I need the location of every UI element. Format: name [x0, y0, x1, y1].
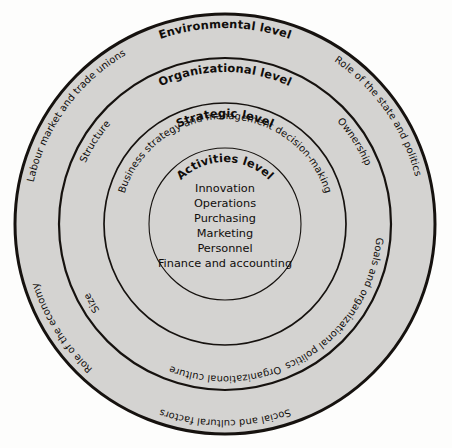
- center-list-item: Innovation: [195, 182, 255, 195]
- center-list-item: Finance and accounting: [158, 257, 292, 270]
- center-list-item: Purchasing: [194, 212, 256, 225]
- center-list-item: Marketing: [197, 227, 253, 240]
- label-technology: Technology: [0, 0, 5, 2]
- concentric-levels-svg: Environmental level Organizational level…: [0, 0, 452, 448]
- center-list-item: Operations: [194, 197, 256, 210]
- center-list-item: Personnel: [197, 242, 252, 255]
- business-environment-diagram: Environmental level Organizational level…: [0, 0, 452, 448]
